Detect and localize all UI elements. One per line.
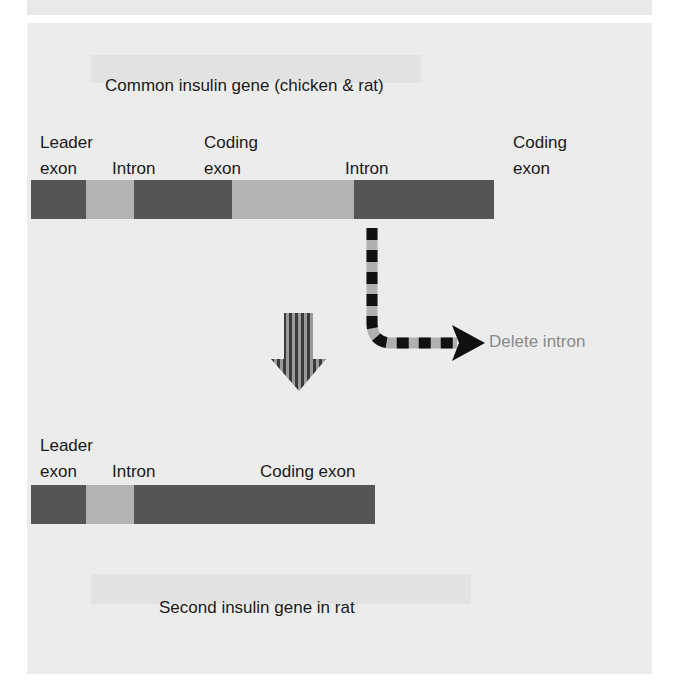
down-arrow-icon: [271, 313, 327, 393]
segment-coding-exon: [134, 485, 375, 524]
label-leader-exon-top: Leader exon: [40, 133, 93, 179]
segment-coding-exon: [354, 180, 494, 219]
top-strip: [27, 0, 652, 15]
title-top: Common insulin gene (chicken & rat): [105, 76, 384, 96]
segment-intron: [86, 180, 134, 219]
label-intron-1-top: Intron: [112, 159, 155, 179]
gene-bar-top: [31, 180, 494, 219]
segment-intron-deleted: [232, 180, 354, 219]
label-intron-bottom: Intron: [112, 462, 155, 482]
segment-intron: [86, 485, 134, 524]
label-coding-exon-1-top: Coding exon: [204, 133, 258, 179]
title-bottom: Second insulin gene in rat: [159, 598, 355, 618]
segment-leader-exon: [31, 485, 86, 524]
label-leader-exon-bottom: Leader exon: [40, 436, 93, 482]
label-coding-exon-bottom: Coding exon: [260, 462, 355, 482]
segment-coding-exon: [134, 180, 232, 219]
label-coding-exon-2-top: Coding exon: [513, 133, 567, 179]
gene-bar-bottom: [31, 485, 375, 524]
diagram-panel: Common insulin gene (chicken & rat) Lead…: [27, 23, 652, 674]
delete-intron-arrow-icon: [357, 223, 487, 363]
segment-leader-exon: [31, 180, 86, 219]
label-intron-2-top: Intron: [345, 159, 388, 179]
delete-intron-label: Delete intron: [489, 332, 585, 352]
